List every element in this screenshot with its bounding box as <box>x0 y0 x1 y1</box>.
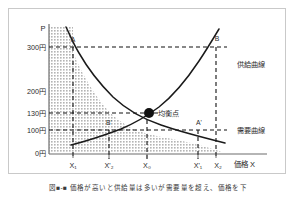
point-label-a-prime: A' <box>196 119 202 126</box>
y-tick-0: 0円 <box>35 149 46 158</box>
y-tick-100: 100円 <box>27 126 46 135</box>
demand-curve-label: 需要曲線 <box>237 126 265 135</box>
figure-card: P 価格 X 300円 200円 130円 100円 0円 均衡点 A B B'… <box>8 8 286 174</box>
figure-caption: 図■-■ 価格が高いと供給量は多いが需要量を超え、価格を下 <box>8 182 288 192</box>
x-tick-x2: X₂ <box>214 161 222 170</box>
point-label-b: B <box>215 35 220 42</box>
equilibrium-point-label: 均衡点 <box>158 109 179 118</box>
point-label-a: A <box>71 36 76 43</box>
y-tick-300: 300円 <box>27 43 46 52</box>
x-tick-x0: X₀ <box>143 161 151 170</box>
y-axis-label: P <box>40 24 45 33</box>
point-label-b-prime: B' <box>106 119 112 126</box>
x-tick-x1: X₁ <box>69 161 77 170</box>
y-tick-130: 130円 <box>27 109 46 118</box>
supply-demand-chart: P 価格 X 300円 200円 130円 100円 0円 均衡点 A B B'… <box>9 9 287 175</box>
x-tick-x2prime: X'₂ <box>105 161 114 170</box>
x-axis-label: 価格 X <box>234 159 255 169</box>
y-tick-200: 200円 <box>27 87 46 96</box>
x-tick-x1prime: X'₁ <box>194 161 203 170</box>
equilibrium-point-dot <box>144 108 154 118</box>
supply-curve-label: 供給曲線 <box>237 60 265 69</box>
